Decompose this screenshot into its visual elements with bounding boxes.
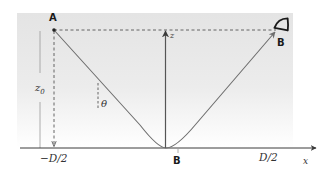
label-z0-sub: 0	[40, 88, 44, 96]
label-ground-b: B	[173, 156, 181, 166]
label-x-axis: x	[303, 157, 308, 166]
point-a-dot	[52, 28, 56, 32]
label-z-axis: z	[170, 32, 174, 40]
ray-diagram: A B z z0 θ −D/2 D/2 B x	[0, 0, 333, 177]
label-d-half: D/2	[259, 152, 278, 163]
label-minus-d-half: −D/2	[40, 153, 67, 164]
graded-medium	[17, 13, 293, 148]
label-z0: z0	[35, 83, 45, 96]
label-theta: θ	[101, 99, 107, 109]
label-observer-b: B	[277, 38, 285, 48]
label-point-a: A	[49, 13, 57, 23]
diagram-canvas	[0, 0, 333, 177]
